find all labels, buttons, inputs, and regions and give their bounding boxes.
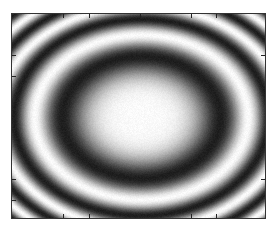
bottom-tick-mark [140, 214, 141, 218]
bottom-tick-mark [89, 214, 90, 218]
top-tick-mark [140, 14, 141, 18]
top-tick-mark [89, 14, 90, 18]
bottom-tick-mark [216, 214, 217, 218]
top-tick-mark [191, 14, 192, 18]
left-tick-mark [12, 76, 16, 77]
ring-pattern-image [12, 14, 265, 218]
bottom-tick-mark [63, 214, 64, 218]
left-tick-mark [12, 200, 16, 201]
right-tick-mark [261, 179, 265, 180]
top-tick-mark [63, 14, 64, 18]
plot-frame [11, 13, 266, 219]
left-tick-mark [12, 179, 16, 180]
left-tick-mark [12, 55, 16, 56]
bottom-tick-mark [191, 214, 192, 218]
top-tick-mark [216, 14, 217, 18]
right-tick-mark [261, 55, 265, 56]
